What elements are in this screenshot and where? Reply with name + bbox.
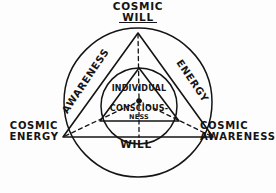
label-individual: INDIVIDUAL <box>101 85 177 93</box>
label-cosmic-will: COSMIC WILL <box>96 1 180 23</box>
label-cosmic-energy-line1: COSMIC <box>10 120 58 131</box>
label-cosmic-energy-line2: ENERGY <box>9 131 58 142</box>
label-cosmic-awareness: COSMIC AWARENESS <box>200 121 276 142</box>
center-point-dot <box>137 99 142 104</box>
diagram-canvas: COSMIC WILL COSMIC ENERGY COSMIC AWARENE… <box>0 0 276 193</box>
triad-diagram-svg <box>0 0 276 193</box>
label-cosmic-energy: COSMIC ENERGY <box>2 121 66 142</box>
label-cosmic-awareness-line2: AWARENESS <box>200 131 276 142</box>
label-consciousness-ness: NESS <box>117 114 161 121</box>
label-cosmic-will-underline <box>119 22 157 23</box>
label-cosmic-awareness-line1: COSMIC <box>200 120 248 131</box>
label-edge-will: WILL <box>108 139 164 150</box>
